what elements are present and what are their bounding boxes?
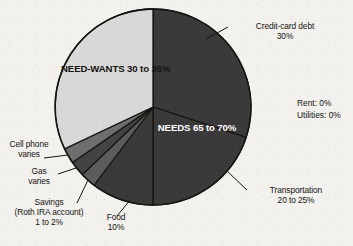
food-name: Food [107, 212, 126, 222]
credit-card-debt-value: 30% [230, 32, 340, 42]
food-value: 10% [92, 223, 140, 233]
annotation-rent: Rent: 0% [297, 97, 341, 109]
annotation-utilities: Utilities: 0% [297, 109, 341, 121]
savings-value: 1 to 2% [2, 218, 96, 228]
callout-cell-phone: Cell phone varies [1, 140, 57, 160]
callout-gas: Gas varies [18, 167, 60, 187]
needs-value: 65 to 70% [193, 122, 236, 133]
callout-credit-card-debt: Credit-card debt 30% [230, 22, 340, 42]
gas-name: Gas [31, 166, 46, 176]
callout-transportation: Transportation 20 to 25% [248, 186, 344, 206]
pie-group-label-need-wants: NEED-WANTS 30 to 35% [61, 63, 167, 75]
need-wants-title: NEED-WANTS [61, 63, 125, 74]
callout-savings: Savings (Roth IRA account) 1 to 2% [2, 198, 96, 228]
annotations-group: Rent: 0% Utilities: 0% [297, 97, 341, 121]
gas-value: varies [18, 177, 60, 187]
pie-group-label-needs: NEEDS 65 to 70% [151, 122, 243, 134]
cell-phone-value: varies [1, 150, 57, 160]
credit-card-debt-name: Credit-card debt [256, 21, 314, 31]
needs-title: NEEDS [158, 122, 191, 133]
pie-chart: NEED-WANTS 30 to 35% NEEDS 65 to 70% Cre… [0, 0, 353, 246]
callout-food: Food 10% [92, 213, 140, 233]
cell-phone-name: Cell phone [9, 139, 48, 149]
savings-name: Savings [34, 197, 63, 207]
leader-line-transportation [228, 172, 247, 190]
transportation-value: 20 to 25% [248, 196, 344, 206]
need-wants-value: 30 to 35% [127, 63, 170, 74]
leader-line-gas [58, 168, 76, 174]
transportation-name: Transportation [270, 185, 322, 195]
